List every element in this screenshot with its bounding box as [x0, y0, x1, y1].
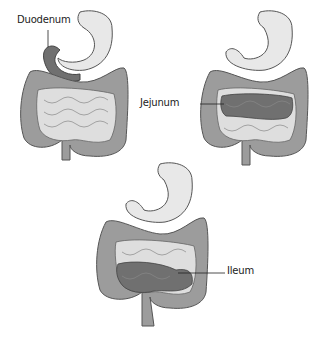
- panel-ileum: Ileum: [80, 160, 323, 338]
- digestive-tract-illustration: [160, 0, 323, 170]
- digestive-tract-illustration: [80, 160, 323, 338]
- label-ileum: Ileum: [227, 265, 254, 276]
- label-jejunum: Jejunum: [140, 97, 179, 108]
- panel-duodenum: Duodenum: [0, 0, 160, 170]
- stomach: [226, 11, 292, 71]
- panel-jejunum: Jejunum: [160, 0, 323, 170]
- digestive-tract-illustration: [0, 0, 160, 170]
- label-duodenum: Duodenum: [17, 14, 70, 25]
- stomach: [126, 163, 192, 223]
- small-intestine: [37, 88, 116, 142]
